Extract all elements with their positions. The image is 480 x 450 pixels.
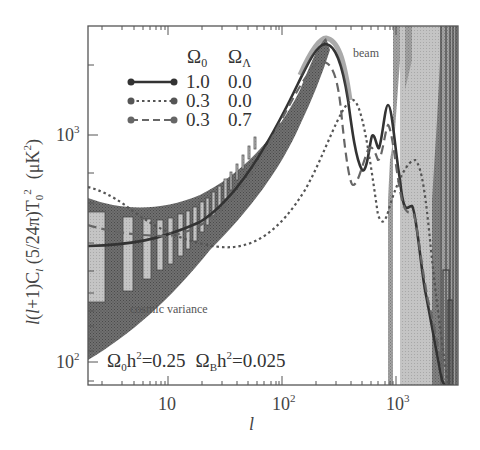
legend-row-dotted: 0.3 0.0 — [128, 90, 252, 111]
svg-text:0.0: 0.0 — [228, 71, 252, 92]
xtick-label-10: 10 — [158, 394, 176, 414]
svg-text:0.0: 0.0 — [228, 90, 252, 111]
legend-row-solid: 1.0 0.0 — [128, 71, 252, 92]
annotation-beam: beam — [353, 46, 380, 60]
xtick-label-1000: 103 — [386, 392, 410, 414]
ytick-label-100: 102 — [56, 350, 80, 372]
svg-text:1.0: 1.0 — [186, 71, 210, 92]
y-axis-title: l(l+1)Cl (5/24π)T02(μK2) — [21, 139, 45, 325]
legend-header-omega0: Ω0 — [187, 46, 207, 70]
legend: Ω0 ΩΛ 1.0 0.0 0.3 0.0 0.3 0.7 — [128, 46, 252, 130]
ytick-label-1000: 103 — [56, 123, 80, 145]
svg-text:0.3: 0.3 — [186, 109, 210, 130]
legend-header-omegaL: ΩΛ — [228, 46, 251, 70]
legend-row-dashed: 0.3 0.7 — [128, 109, 252, 130]
svg-text:0.3: 0.3 — [186, 90, 210, 111]
beam-band — [388, 26, 458, 385]
xtick-label-100: 102 — [272, 392, 296, 414]
cosmological-parameters: Ω0h2=0.25ΩBh2=0.025 — [107, 349, 286, 373]
x-axis-title: l — [249, 414, 254, 434]
cmb-power-spectrum-chart: 103 102 10 102 103 l l(l+1)Cl (5/24π)T02… — [0, 0, 480, 450]
annotation-cosmic-variance: cosmic variance — [130, 302, 208, 316]
svg-text:0.7: 0.7 — [228, 109, 252, 130]
